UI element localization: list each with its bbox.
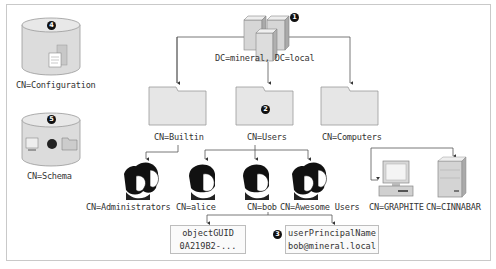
attribute-userprincipalname[interactable]: userPrincipalName bob@mineral.local: [285, 225, 379, 254]
folder-icon: [148, 83, 208, 127]
attribute-value: bob@mineral.local: [286, 240, 378, 253]
root-domain-label: DC=mineral, DC=local: [215, 53, 314, 63]
user-icon: [183, 160, 223, 200]
container-computers-label: CN=Computers: [322, 132, 382, 142]
container-users-label: CN=Users: [247, 132, 287, 142]
callout-badge-1: 1: [290, 13, 299, 22]
computer-cinnabar-label: CN=CINNABAR: [426, 202, 481, 212]
callout-badge-5: 5: [47, 115, 56, 124]
user-icon: [237, 160, 277, 200]
group-awesome-users[interactable]: [288, 160, 334, 200]
partition-schema-label: CN=Schema: [27, 171, 72, 181]
attribute-objectguid[interactable]: objectGUID 0A219B2-...: [170, 225, 246, 254]
container-builtin[interactable]: [148, 83, 208, 127]
user-bob[interactable]: [237, 160, 277, 200]
computer-cinnabar[interactable]: [436, 156, 468, 198]
computer-graphite-label: CN=GRAPHITE: [369, 202, 424, 212]
server-icon: [436, 156, 468, 198]
group-icon: [288, 160, 334, 200]
user-alice[interactable]: [183, 160, 223, 200]
workstation-icon: [378, 160, 414, 198]
container-computers[interactable]: [320, 83, 380, 127]
attribute-name: objectGUID: [171, 227, 245, 240]
attribute-name: userPrincipalName: [286, 227, 378, 240]
user-bob-label: CN=bob: [247, 202, 277, 212]
partition-configuration-label: CN=Configuration: [16, 80, 96, 90]
folder-icon: [320, 83, 380, 127]
computer-graphite[interactable]: [378, 160, 414, 198]
attribute-value: 0A219B2-...: [171, 240, 245, 253]
callout-badge-2: 2: [261, 105, 270, 114]
group-administrators-label: CN=Administrators: [86, 202, 171, 212]
callout-badge-3: 3: [273, 230, 282, 239]
group-administrators[interactable]: [120, 160, 166, 200]
callout-badge-4: 4: [47, 21, 56, 30]
group-icon: [120, 160, 166, 200]
container-builtin-label: CN=Builtin: [154, 132, 204, 142]
group-awesome-users-label: CN=Awesome Users: [280, 202, 360, 212]
user-alice-label: CN=alice: [176, 202, 216, 212]
